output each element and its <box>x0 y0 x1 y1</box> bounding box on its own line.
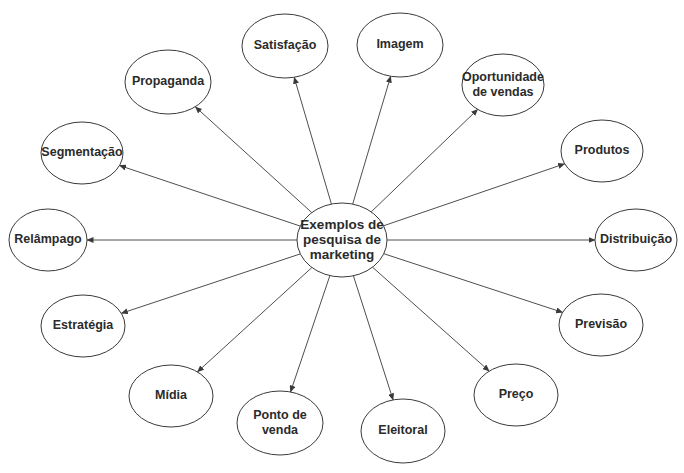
node-label: Relâmpago <box>14 232 82 246</box>
node-label: Previsão <box>575 317 627 331</box>
node-label: Produtos <box>575 143 630 157</box>
node-satisfacao: Satisfação <box>242 14 328 78</box>
node-label: Exemplos de <box>300 217 384 232</box>
arrow-center-to-imagem <box>353 76 391 204</box>
node-propaganda: Propaganda <box>125 50 211 114</box>
arrow-center-to-ponto-de-venda <box>291 276 330 392</box>
node-label: pesquisa de <box>303 232 382 247</box>
arrow-center-to-estrategia <box>121 254 300 313</box>
node-relampago: Relâmpago <box>9 209 87 271</box>
nodes: SatisfaçãoImagemPropagandaOportunidadede… <box>9 13 677 463</box>
center-node: Exemplos depesquisa demarketing <box>297 203 387 277</box>
node-distribuicao: Distribuição <box>595 209 677 271</box>
arrow-center-to-segmentacao <box>120 166 301 227</box>
node-label: Ponto de <box>253 408 307 422</box>
node-label: Satisfação <box>254 38 317 52</box>
node-label: venda <box>262 423 299 437</box>
arrow-center-to-previsao <box>384 254 563 313</box>
node-label: Preço <box>499 387 534 401</box>
node-label: Estratégia <box>53 318 114 332</box>
node-label: Distribuição <box>600 232 673 246</box>
node-segmentacao: Segmentação <box>41 122 123 184</box>
arrow-center-to-eleitoral <box>353 276 393 400</box>
node-midia: Mídia <box>129 365 213 427</box>
node-label: Eleitoral <box>378 423 427 437</box>
node-eleitoral: Eleitoral <box>361 399 445 463</box>
node-label: Segmentação <box>41 145 123 159</box>
node-estrategia: Estratégia <box>41 295 125 357</box>
node-oportunidade-de-vendas: Oportunidadede vendas <box>462 54 544 116</box>
arrow-center-to-oportunidade-de-vendas <box>371 109 478 211</box>
node-label: Mídia <box>155 388 188 402</box>
node-produtos: Produtos <box>561 120 643 182</box>
marketing-research-diagram: SatisfaçãoImagemPropagandaOportunidadede… <box>0 0 684 473</box>
arrow-center-to-midia <box>197 268 312 372</box>
node-label: Imagem <box>376 37 423 51</box>
node-imagem: Imagem <box>357 13 443 77</box>
node-previsao: Previsão <box>559 294 643 356</box>
node-label: Oportunidade <box>462 70 544 84</box>
node-label: de vendas <box>472 85 533 99</box>
node-label: marketing <box>310 247 375 262</box>
node-preco: Preço <box>474 364 558 426</box>
node-label: Propaganda <box>132 74 205 88</box>
node-ponto-de-venda: Ponto devenda <box>237 391 323 455</box>
arrow-center-to-satisfacao <box>294 77 331 204</box>
arrow-center-to-produtos <box>384 164 565 226</box>
